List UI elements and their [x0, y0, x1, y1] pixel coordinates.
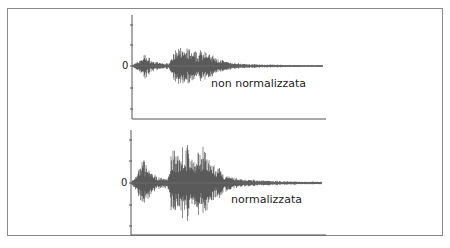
bottom-waveform-panel	[129, 130, 326, 235]
bottom-zero-label: 0	[121, 177, 127, 188]
bottom-waveform	[132, 145, 322, 221]
bottom-panel-label: normalizzata	[231, 193, 302, 206]
waveform-plots	[0, 0, 450, 248]
top-waveform-panel	[130, 15, 326, 119]
top-zero-label: 0	[122, 60, 128, 71]
top-panel-label: non normalizzata	[211, 77, 306, 90]
